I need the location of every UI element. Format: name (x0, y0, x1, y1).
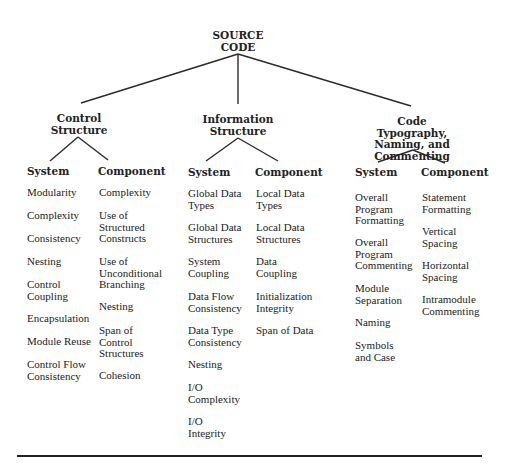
tree-edge (78, 137, 108, 160)
system-metric-item: Nesting (27, 256, 61, 268)
component-metric-item: Intramodule Commenting (422, 294, 479, 317)
system-metric-item: Data Flow Consistency (188, 291, 242, 314)
component-metric-item: Use of Unconditional Branching (99, 256, 162, 291)
component-heading: Component (421, 166, 489, 178)
component-metric-item: Local Data Structures (256, 222, 305, 245)
component-metric-item: Span of Data (256, 325, 313, 337)
tree-edge (238, 54, 411, 106)
tree-edge (81, 54, 238, 103)
tree-edge (206, 138, 238, 161)
category-node-code-typography-naming-and-commenting: Code Typography, Naming, and Commenting (365, 116, 460, 162)
component-metric-item: Complexity (99, 187, 151, 199)
system-metric-item: System Coupling (188, 256, 229, 279)
system-metric-item: Global Data Types (188, 188, 241, 211)
system-metric-item: Nesting (188, 359, 222, 371)
system-metric-item: Control Coupling (27, 279, 68, 302)
system-metric-item: I/O Complexity (188, 382, 240, 405)
system-metric-item: Overall Program Commenting (355, 237, 412, 272)
tree-edge (50, 137, 78, 161)
system-metric-item: Global Data Structures (188, 222, 241, 245)
component-metric-item: Cohesion (99, 370, 141, 382)
component-metric-item: Use of Structured Constructs (99, 210, 146, 245)
system-heading: System (27, 165, 69, 177)
system-metric-item: Overall Program Formatting (355, 192, 404, 227)
system-metric-item: Control Flow Consistency (27, 359, 86, 382)
component-metric-item: Horizontal Spacing (422, 260, 469, 283)
component-heading: Component (255, 166, 323, 178)
system-metric-item: Symbols and Case (355, 340, 395, 363)
system-metric-item: Encapsulation (27, 313, 89, 325)
component-metric-item: Vertical Spacing (422, 226, 457, 249)
system-metric-item: Naming (355, 317, 390, 329)
component-metric-item: Initialization Integrity (256, 291, 312, 314)
system-heading: System (188, 166, 230, 178)
system-metric-item: Module Separation (355, 283, 402, 306)
system-metric-item: Data Type Consistency (188, 325, 242, 348)
system-metric-item: Consistency (27, 233, 81, 245)
component-heading: Component (98, 165, 166, 177)
system-metric-item: Module Reuse (27, 336, 91, 348)
system-metric-item: Complexity (27, 210, 79, 222)
category-node-information-structure: Information Structure (203, 114, 274, 137)
system-heading: System (355, 166, 397, 178)
system-metric-item: Modularity (27, 187, 77, 199)
category-node-control-structure: Control Structure (51, 113, 108, 136)
tree-edge (238, 138, 278, 161)
root-node-source-code: SOURCE CODE (213, 30, 264, 53)
component-metric-item: Local Data Types (256, 188, 305, 211)
component-metric-item: Nesting (99, 301, 133, 313)
component-metric-item: Data Coupling (256, 256, 297, 279)
system-metric-item: I/O Integrity (188, 416, 226, 439)
component-metric-item: Statement Formatting (422, 192, 471, 215)
component-metric-item: Span of Control Structures (99, 325, 144, 360)
